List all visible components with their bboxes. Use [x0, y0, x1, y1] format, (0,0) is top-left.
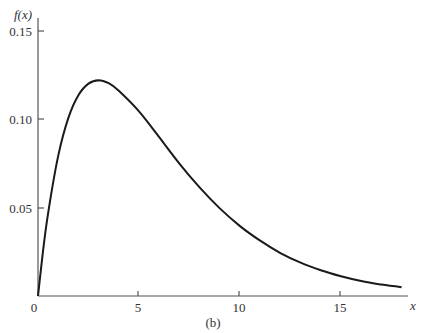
x-tick-label-0: 0	[31, 300, 38, 315]
x-tick-label-5: 5	[135, 300, 142, 315]
y-tick-label-015: 0.15	[9, 24, 32, 39]
y-tick-label-010: 0.10	[9, 112, 32, 127]
x-tick-label-10: 10	[233, 300, 246, 315]
density-curve	[38, 80, 402, 296]
y-axis-label: f(x)	[14, 7, 32, 22]
figure-caption: (b)	[205, 315, 220, 330]
x-axis-label: x	[409, 298, 416, 313]
y-tick-label-005: 0.05	[9, 201, 32, 216]
x-tick-label-15: 15	[334, 300, 347, 315]
chart-canvas: 0.15 0.10 0.05 0 5 10 15 f(x) x (b)	[0, 0, 421, 333]
